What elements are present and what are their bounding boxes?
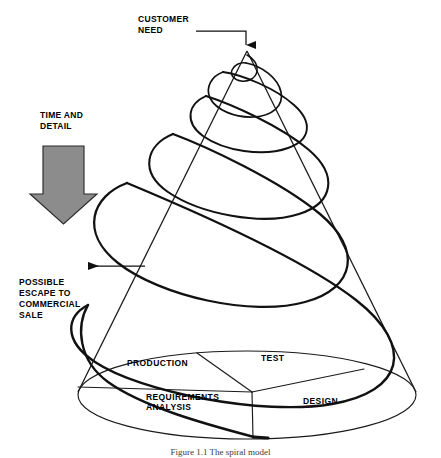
- sector-label-production: PRODUCTION: [127, 358, 188, 369]
- figure-canvas: CUSTOMER NEED TIME AND DETAIL POSSIBLE E…: [0, 0, 441, 458]
- sector-label-requirements-analysis: REQUIREMENTS ANALYSIS: [146, 392, 219, 412]
- time-and-detail-block-arrow: [30, 146, 97, 224]
- time-and-detail-label: TIME AND DETAIL: [40, 110, 83, 132]
- spiral-end-cap: [254, 437, 268, 438]
- customer-need-label: CUSTOMER NEED: [138, 14, 189, 36]
- sector-label-test: TEST: [261, 353, 284, 364]
- possible-escape-label: POSSIBLE ESCAPE TO COMMERCIAL SALE: [19, 277, 81, 321]
- cone-outline: [78, 51, 416, 392]
- spiral-turn-5: [94, 134, 348, 307]
- customer-need-leader: [196, 31, 246, 45]
- figure-caption: Figure 1.1 The spiral model: [0, 447, 441, 457]
- spiral-turn-2: [208, 63, 281, 117]
- spiral-model-diagram: [0, 0, 441, 458]
- customer-need-arrow: [196, 31, 246, 45]
- down-arrow-icon: [30, 146, 97, 224]
- sector-label-design: DESIGN: [303, 396, 338, 407]
